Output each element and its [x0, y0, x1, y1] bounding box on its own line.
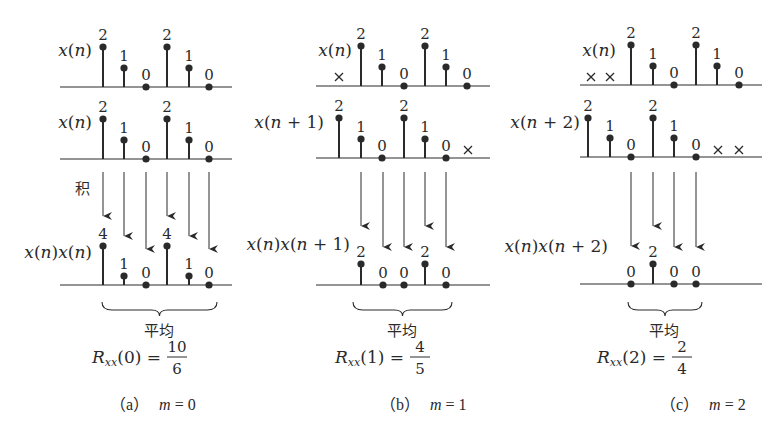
sample-value: 0 — [626, 263, 636, 281]
sample-value: 0 — [377, 137, 387, 155]
autocorrelation-result: Rxx(0) = 106 — [91, 338, 187, 378]
sample-value: 1 — [119, 119, 129, 137]
autocorrelation-result: Rxx(1) = 45 — [334, 338, 430, 378]
stem-sample: 0 — [141, 66, 151, 91]
sample-value: 0 — [141, 264, 151, 282]
stem-sample: 2 — [162, 26, 172, 87]
sample-value: 2 — [98, 26, 108, 44]
stem-sample: 0 — [462, 65, 472, 90]
cross-marker — [464, 146, 472, 154]
sample-dot — [713, 62, 720, 69]
product-note: 积 — [75, 180, 90, 198]
stem-sample: 0 — [204, 264, 214, 289]
sample-value: 2 — [648, 97, 658, 115]
stem-sample: 2 — [98, 98, 108, 159]
autocorrelation-diagram: x(n)210210x(n)210210x(n)x(n)410410积平均Rxx… — [0, 0, 784, 432]
cross-marker — [714, 146, 722, 154]
sample-value: 0 — [691, 136, 701, 154]
sequence-label: x(n) — [58, 112, 92, 132]
sample-dot — [649, 260, 656, 267]
sample-value: 1 — [441, 46, 451, 64]
stem-sample: 0 — [669, 64, 679, 89]
result-lhs: Rxx(0) = — [91, 347, 161, 369]
sample-dot — [185, 64, 192, 71]
stem-sample: 2 — [98, 26, 108, 87]
sample-value: 2 — [162, 98, 172, 116]
sample-value: 2 — [420, 243, 430, 261]
sample-value: 1 — [356, 118, 366, 136]
sample-dot — [205, 281, 212, 288]
stem-sample: 2 — [648, 97, 658, 157]
sample-value: 0 — [399, 264, 409, 282]
sample-dot — [142, 281, 149, 288]
sample-value: 0 — [441, 137, 451, 155]
sample-dot — [421, 42, 428, 49]
sample-dot — [692, 153, 699, 160]
stem-sample: 0 — [691, 263, 701, 288]
sequence-row: x(n)210210 — [58, 26, 232, 91]
result-lhs: Rxx(2) = — [596, 347, 666, 369]
sample-value: 1 — [420, 118, 430, 136]
cross-marker — [335, 73, 343, 81]
result-lhs: Rxx(1) = — [334, 347, 404, 369]
sample-dot — [421, 260, 428, 267]
sample-value: 0 — [204, 264, 214, 282]
sample-dot — [205, 155, 212, 162]
result-denominator: 5 — [415, 360, 425, 378]
stem-sample: 1 — [669, 117, 679, 157]
sample-dot — [463, 82, 470, 89]
sample-dot — [400, 281, 407, 288]
sequence-row: x(n)210210 — [580, 24, 762, 89]
sample-value: 0 — [378, 264, 388, 282]
sample-dot — [649, 62, 656, 69]
stem-sample: 0 — [626, 136, 636, 161]
stem-sample: 1 — [648, 45, 658, 85]
stem-sample: 1 — [119, 119, 129, 159]
stem-sample: 0 — [441, 264, 451, 289]
sample-dot — [163, 242, 170, 249]
stem-sample: 0 — [399, 65, 409, 90]
average-label: 平均 — [649, 322, 679, 340]
stem-sample: 0 — [399, 264, 409, 289]
sample-value: 1 — [377, 46, 387, 64]
sample-dot — [692, 41, 699, 48]
sequence-row: x(n)x(n + 2)0200 — [504, 236, 762, 288]
sample-value: 2 — [98, 98, 108, 116]
sample-dot — [379, 281, 386, 288]
sample-value: 1 — [184, 47, 194, 65]
stem-sample: 0 — [204, 66, 214, 91]
sample-value: 0 — [462, 65, 472, 83]
sample-value: 0 — [441, 264, 451, 282]
stem-sample: 2 — [583, 97, 593, 157]
stem-sample: 2 — [626, 24, 636, 85]
sample-dot — [400, 114, 407, 121]
sample-value: 2 — [420, 25, 430, 43]
sample-value: 2 — [399, 97, 409, 115]
stem-sample: 0 — [734, 64, 744, 89]
stem-sample: 1 — [377, 46, 387, 86]
result-numerator: 10 — [167, 338, 186, 356]
sample-value: 4 — [98, 225, 108, 243]
sample-value: 1 — [184, 255, 194, 273]
sample-value: 1 — [712, 45, 722, 63]
stem-sample: 0 — [204, 138, 214, 163]
stem-sample: 1 — [605, 117, 615, 157]
panel-b: x(n)210210x(n + 1)210210x(n)x(n + 1)2002… — [246, 25, 490, 413]
stem-sample: 0 — [669, 263, 679, 288]
panel-caption: （b）m = 1 — [380, 396, 467, 413]
sample-value: 0 — [669, 64, 679, 82]
sequence-label: x(n)x(n) — [24, 242, 92, 262]
sample-dot — [357, 42, 364, 49]
stem-sample: 1 — [184, 119, 194, 159]
sample-value: 2 — [648, 243, 658, 261]
sample-dot — [442, 154, 449, 161]
sequence-label: x(n) — [318, 40, 352, 60]
sample-value: 1 — [605, 117, 615, 135]
cross-marker — [606, 73, 614, 81]
result-denominator: 6 — [172, 360, 182, 378]
panel-a: x(n)210210x(n)210210x(n)x(n)410410积平均Rxx… — [24, 26, 232, 413]
sample-dot — [670, 81, 677, 88]
sample-value: 2 — [162, 26, 172, 44]
sample-dot — [627, 153, 634, 160]
stem-sample: 1 — [712, 45, 722, 85]
